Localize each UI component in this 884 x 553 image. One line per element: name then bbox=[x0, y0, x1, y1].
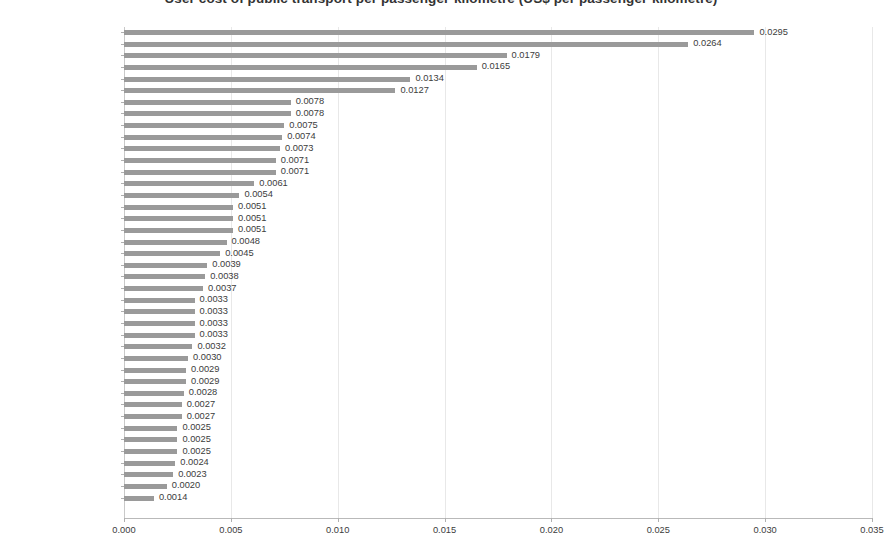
bar-row[interactable]: Sao Paulo [HY]0.0078 bbox=[124, 97, 872, 109]
x-axis-tick bbox=[124, 518, 125, 522]
bar[interactable] bbox=[124, 111, 291, 116]
bar[interactable] bbox=[124, 216, 233, 221]
bar-row[interactable]: Bogota [PT]0.0078 bbox=[124, 108, 872, 120]
bar-row[interactable]: Johannesburg [PT]0.0054 bbox=[124, 190, 872, 202]
bar[interactable] bbox=[124, 402, 182, 407]
bar-row[interactable]: Berlin [HY]0.0048 bbox=[124, 237, 872, 249]
bar-row[interactable]: Taipei [TS]0.0033 bbox=[124, 306, 872, 318]
x-axis-line bbox=[124, 518, 872, 519]
bar[interactable] bbox=[124, 263, 207, 268]
bar[interactable] bbox=[124, 228, 233, 233]
bar[interactable] bbox=[124, 146, 280, 151]
bar[interactable] bbox=[124, 437, 177, 442]
bar-value-label: 0.0078 bbox=[296, 108, 324, 120]
bar[interactable] bbox=[124, 391, 184, 396]
bar-row[interactable]: Hong Kong [TR]0.0039 bbox=[124, 260, 872, 272]
bar-row[interactable]: Shanghai [NM]0.0029 bbox=[124, 376, 872, 388]
bar[interactable] bbox=[124, 274, 205, 279]
bar-row[interactable]: Chicago [HY]0.0032 bbox=[124, 341, 872, 353]
bar[interactable] bbox=[124, 42, 688, 47]
bar-row[interactable]: Beijing [NM]0.0014 bbox=[124, 493, 872, 505]
bar[interactable] bbox=[124, 461, 175, 466]
bar-row[interactable]: Ho Chi Minh City [TS]0.0295 bbox=[124, 27, 872, 39]
bar[interactable] bbox=[124, 170, 276, 175]
bar-value-label: 0.0025 bbox=[182, 422, 210, 434]
bar-row[interactable]: San Francisco [HY]0.0025 bbox=[124, 446, 872, 458]
bar[interactable] bbox=[124, 426, 177, 431]
bar-row[interactable]: New York [HY]0.0037 bbox=[124, 283, 872, 295]
bar[interactable] bbox=[124, 30, 754, 35]
x-axis-tick-label: 0.035 bbox=[860, 525, 883, 535]
bar-row[interactable]: Washington [HY]0.0033 bbox=[124, 295, 872, 307]
bar-row[interactable]: Madrid [HY]0.0051 bbox=[124, 202, 872, 214]
bar-value-label: 0.0027 bbox=[187, 411, 215, 423]
bar-value-label: 0.0028 bbox=[189, 387, 217, 399]
bar[interactable] bbox=[124, 309, 195, 314]
bar-value-label: 0.0179 bbox=[512, 50, 540, 62]
bar-row[interactable]: Kuala Lumpur [TS]0.0074 bbox=[124, 132, 872, 144]
bar-row[interactable]: Bangkok [TS]0.0030 bbox=[124, 353, 872, 365]
bar[interactable] bbox=[124, 251, 220, 256]
bar-value-label: 0.0134 bbox=[415, 73, 443, 85]
bar[interactable] bbox=[124, 449, 177, 454]
bar[interactable] bbox=[124, 100, 291, 105]
bar-value-label: 0.0033 bbox=[200, 329, 228, 341]
bar-value-label: 0.0024 bbox=[180, 457, 208, 469]
x-axis-tick-label: 0.010 bbox=[326, 525, 349, 535]
x-axis-tick bbox=[231, 518, 232, 522]
bar-row[interactable]: Guangzhou [NM]0.0061 bbox=[124, 178, 872, 190]
bar-row[interactable]: Harare [PT]0.0179 bbox=[124, 50, 872, 62]
bar-row[interactable]: Tehran [TS]0.0071 bbox=[124, 167, 872, 179]
bar-row[interactable]: London [HY]0.0075 bbox=[124, 120, 872, 132]
bar-row[interactable]: Ruhr [HY]0.0025 bbox=[124, 434, 872, 446]
bar-row[interactable]: Melbourne [HY]0.0028 bbox=[124, 388, 872, 400]
bar[interactable] bbox=[124, 77, 410, 82]
bar[interactable] bbox=[124, 472, 173, 477]
bar-row[interactable]: Osaka [TR]0.0033 bbox=[124, 318, 872, 330]
bar[interactable] bbox=[124, 205, 233, 210]
bar-row[interactable]: Riyadh [AU]0.0127 bbox=[124, 85, 872, 97]
bar[interactable] bbox=[124, 356, 188, 361]
bar-row[interactable]: Cairo [TS]0.0071 bbox=[124, 155, 872, 167]
bar[interactable] bbox=[124, 181, 254, 186]
bar-row[interactable]: Toronto [HY]0.0051 bbox=[124, 213, 872, 225]
bar[interactable] bbox=[124, 286, 203, 291]
bar-value-label: 0.0014 bbox=[159, 492, 187, 504]
bar-row[interactable]: Sydney [HY]0.0033 bbox=[124, 330, 872, 342]
bar-value-label: 0.0025 bbox=[182, 434, 210, 446]
bar[interactable] bbox=[124, 135, 282, 140]
bar-row[interactable]: Seoul [TR]0.0045 bbox=[124, 248, 872, 260]
bar-row[interactable]: Dakar [PT]0.0165 bbox=[124, 62, 872, 74]
bar[interactable] bbox=[124, 298, 195, 303]
bar-row[interactable]: Atlanta [HY]0.0024 bbox=[124, 458, 872, 470]
bar-row[interactable]: Montreal [HY]0.0051 bbox=[124, 225, 872, 237]
bar-row[interactable]: Mumbai [NM]0.0038 bbox=[124, 271, 872, 283]
bar-row[interactable]: Manila [-]0.0264 bbox=[124, 39, 872, 51]
bar[interactable] bbox=[124, 496, 154, 501]
bar[interactable] bbox=[124, 88, 395, 93]
bar[interactable] bbox=[124, 321, 195, 326]
bar-row[interactable]: Paris [HY]0.0027 bbox=[124, 411, 872, 423]
bar[interactable] bbox=[124, 158, 276, 163]
bar-row[interactable]: Tokyo [TR]0.0027 bbox=[124, 399, 872, 411]
bar[interactable] bbox=[124, 123, 284, 128]
bar-value-label: 0.0020 bbox=[172, 480, 200, 492]
bar-row[interactable]: Singapore [TR]0.0023 bbox=[124, 469, 872, 481]
bar-row[interactable]: Houston [AU]0.0020 bbox=[124, 481, 872, 493]
bar-row[interactable]: Cape Town [PT]0.0073 bbox=[124, 143, 872, 155]
bar-value-label: 0.0075 bbox=[289, 120, 317, 132]
bar[interactable] bbox=[124, 240, 227, 245]
bar-row[interactable]: Phoenix [AU]0.0025 bbox=[124, 423, 872, 435]
bar[interactable] bbox=[124, 333, 195, 338]
bar[interactable] bbox=[124, 65, 477, 70]
bar[interactable] bbox=[124, 344, 192, 349]
bar-row[interactable]: Los Angeles [HY]0.0029 bbox=[124, 365, 872, 377]
bar[interactable] bbox=[124, 379, 186, 384]
bar[interactable] bbox=[124, 193, 239, 198]
bar[interactable] bbox=[124, 484, 167, 489]
bar-row[interactable]: Jakarta [TS]0.0134 bbox=[124, 74, 872, 86]
bar[interactable] bbox=[124, 414, 182, 419]
bar[interactable] bbox=[124, 368, 186, 373]
bar[interactable] bbox=[124, 53, 507, 58]
